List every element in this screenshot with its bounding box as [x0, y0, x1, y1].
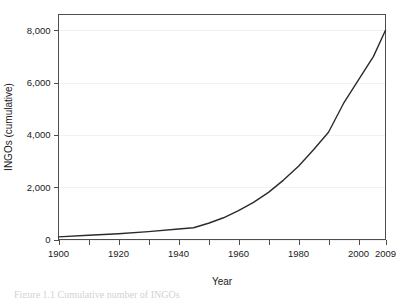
x-axis-title: Year — [212, 276, 233, 287]
x-tick-label-2009: 2009 — [375, 248, 396, 259]
x-tick-label-2000: 2000 — [348, 248, 369, 259]
x-tick-label-1900: 1900 — [48, 248, 69, 259]
x-tick-label-1940: 1940 — [168, 248, 189, 259]
y-axis-title: INGOs (cumulative) — [3, 83, 14, 171]
y-tick-label-8000: 8,000 — [27, 25, 51, 36]
figure-container: 1900192019401960198020002009 02,0004,000… — [0, 0, 411, 298]
y-tick-label-4000: 4,000 — [27, 129, 51, 140]
x-tick-label-1960: 1960 — [228, 248, 249, 259]
figure-caption: Figure 1.1 Cumulative number of INGOs — [0, 289, 411, 298]
y-tick-label-6000: 6,000 — [27, 77, 51, 88]
y-tick-label-0: 0 — [45, 234, 50, 245]
figure-caption-row: Figure 1.1 Cumulative number of INGOs — [0, 289, 411, 298]
y-tick-label-2000: 2,000 — [27, 182, 51, 193]
ingo-cumulative-line-chart: 1900192019401960198020002009 02,0004,000… — [0, 0, 411, 298]
x-tick-label-1920: 1920 — [108, 248, 129, 259]
x-tick-label-1980: 1980 — [288, 248, 309, 259]
